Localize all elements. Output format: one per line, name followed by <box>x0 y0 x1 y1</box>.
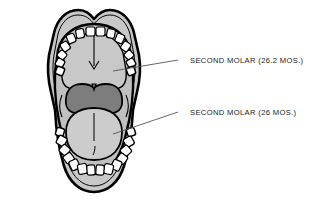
callout-label-upper-second-molar: SECOND MOLAR (26.2 MOS.) <box>190 56 304 65</box>
callout-lower-second-molar: SECOND MOLAR (26 MOS.) <box>113 108 297 134</box>
tooth-upper-lateral-incisor-left <box>75 28 84 38</box>
tooth-lower-second-molar-right <box>126 127 136 137</box>
callout-label-lower-second-molar: SECOND MOLAR (26 MOS.) <box>190 108 297 117</box>
figure-root: SECOND MOLAR (26.2 MOS.) SECOND MOLAR (2… <box>0 0 312 208</box>
tooth-upper-second-molar-left <box>55 66 65 76</box>
tooth-lower-central-incisor-left <box>87 165 96 176</box>
upper-dental-arch <box>54 27 136 90</box>
tooth-upper-central-incisor-right <box>96 27 105 36</box>
tooth-lower-lateral-incisor-left <box>77 163 88 175</box>
tooth-lower-lateral-incisor-right <box>103 163 114 175</box>
mouth-diagram: SECOND MOLAR (26.2 MOS.) SECOND MOLAR (2… <box>0 0 312 208</box>
tooth-upper-central-incisor-left <box>86 27 95 36</box>
callout-upper-second-molar: SECOND MOLAR (26.2 MOS.) <box>113 56 304 71</box>
tooth-lower-central-incisor-right <box>96 165 105 176</box>
tooth-upper-lateral-incisor-right <box>106 28 115 38</box>
